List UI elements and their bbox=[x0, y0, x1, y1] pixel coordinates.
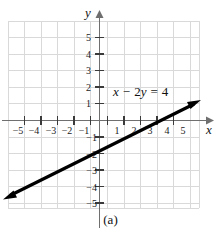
y-tick-label: −3 bbox=[86, 165, 97, 176]
figure-background bbox=[0, 0, 221, 236]
x-tick-label: −4 bbox=[29, 125, 40, 136]
graph-figure: −5 −4 −3 −2 −1 1 2 3 4 5 5 4 3 2 1 −1 −2… bbox=[0, 0, 221, 236]
y-tick-label: 5 bbox=[86, 32, 91, 43]
y-tick-label: −4 bbox=[86, 182, 97, 193]
x-tick-label: −3 bbox=[46, 125, 57, 136]
y-tick-label: 4 bbox=[86, 49, 91, 60]
x-axis-label: x bbox=[205, 122, 212, 137]
x-tick-label: 4 bbox=[165, 125, 170, 136]
x-tick-label: −2 bbox=[62, 125, 73, 136]
x-tick-label: −5 bbox=[13, 125, 24, 136]
y-tick-label: 2 bbox=[86, 82, 91, 93]
y-tick-label: 1 bbox=[86, 98, 91, 109]
equation-var-y: y bbox=[139, 84, 147, 99]
y-axis-label: y bbox=[83, 5, 91, 20]
figure-caption: (a) bbox=[0, 212, 221, 228]
equation-rhs: 4 bbox=[162, 84, 169, 99]
y-tick-label: −1 bbox=[86, 132, 97, 143]
equation-var-x: x bbox=[112, 84, 119, 99]
coordinate-plane: −5 −4 −3 −2 −1 1 2 3 4 5 5 4 3 2 1 −1 −2… bbox=[0, 0, 221, 236]
y-tick-label: −5 bbox=[86, 198, 97, 209]
equation-operator: − bbox=[123, 84, 130, 99]
x-tick-label: 5 bbox=[181, 125, 186, 136]
equation-equals: = bbox=[150, 84, 157, 99]
y-tick-label: 3 bbox=[86, 65, 91, 76]
x-tick-label: 1 bbox=[115, 125, 120, 136]
